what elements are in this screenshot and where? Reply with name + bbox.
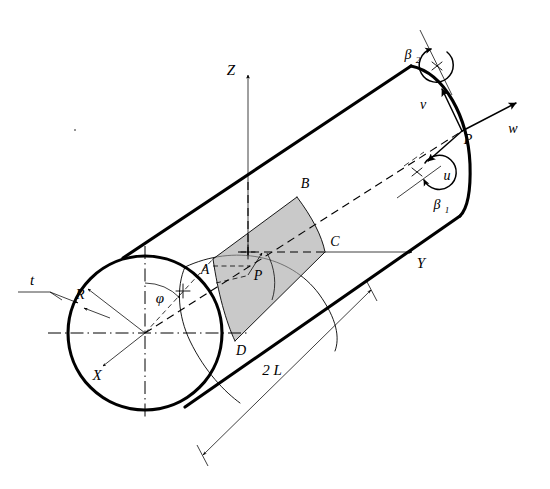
length-tick-near	[197, 445, 208, 466]
z-axis-label: Z	[227, 62, 236, 78]
beta2-subscript: 2	[416, 55, 421, 65]
axis-dashdot	[145, 131, 462, 333]
rotation-beta1: β 1	[397, 152, 456, 215]
point-a-label: A	[200, 262, 210, 277]
beta1-label: β	[433, 197, 441, 212]
scan-speck	[74, 129, 76, 131]
beta1-center-cross-mark	[412, 168, 422, 176]
w-vector-label: w	[508, 121, 518, 136]
thickness-label: t	[30, 272, 35, 288]
panel-p-label: P	[253, 268, 263, 283]
beta1-subscript: 1	[445, 205, 450, 215]
rotation-beta2: β 2	[404, 30, 454, 95]
x-axis-line	[103, 333, 145, 366]
beta2-center-cross-mark	[432, 62, 442, 70]
global-axes	[103, 75, 412, 366]
phi-label: φ	[156, 290, 164, 306]
radius-leader-line	[88, 289, 145, 333]
point-d-label: D	[235, 343, 246, 358]
x-axis-label: X	[91, 367, 102, 383]
cylinder-axis-line	[145, 131, 462, 333]
beta2-axis-stub	[420, 30, 452, 95]
local-frame-origin-label: P	[463, 132, 473, 147]
thickness-leader-horizontal	[18, 292, 62, 300]
y-axis-label: Y	[417, 255, 427, 271]
radius-dimension: R	[74, 286, 145, 333]
axis-labels: Z Y X	[91, 62, 426, 383]
cylinder-far-end-arc	[411, 66, 470, 216]
v-vector-label: v	[420, 97, 427, 112]
u-vector-label: u	[444, 168, 451, 183]
thickness-arrow-lower	[84, 308, 110, 318]
beta2-label: β	[404, 47, 412, 62]
beta1-axis-stub-dash	[404, 152, 424, 166]
shaded-panel-abcd	[213, 197, 325, 341]
point-c-label: C	[330, 234, 340, 249]
figure-canvas: R t φ P A B	[0, 0, 550, 489]
length-tick-far	[366, 280, 377, 301]
thickness-arrow-upper	[50, 292, 78, 303]
length-label: 2 L	[262, 362, 282, 378]
radius-label: R	[74, 286, 84, 302]
point-b-label: B	[301, 176, 310, 191]
cylindrical-shell-figure: R t φ P A B	[0, 0, 550, 489]
